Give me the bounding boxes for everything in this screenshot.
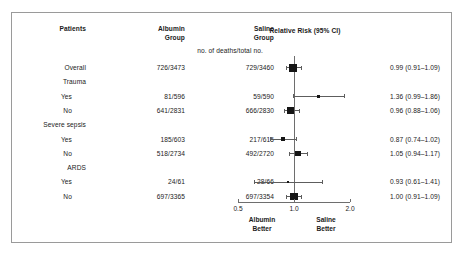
albumin-value: 81/596 [164,93,185,101]
albumin-value: 726/3473 [157,64,185,72]
albumin-value: 24/61 [168,178,185,186]
x-axis-tick [238,199,239,202]
relative-risk-value: 0.87 (0.74–1.02) [390,136,440,144]
ci-cap-right [301,66,302,70]
x-axis-line [238,202,350,203]
saline-better-label: SalineBetter [316,216,335,233]
row-label: No [63,193,72,201]
row-label: Yes [61,178,72,186]
ci-cap-right [299,109,300,113]
albumin-value: 185/603 [160,136,185,144]
relative-risk-value: 0.93 (0.61–1.41) [390,178,440,186]
ci-cap-right [307,152,308,156]
column-header-albumin-line1: Albumin [158,25,185,33]
saline-value: 697/3354 [246,193,274,201]
point-estimate-marker [317,95,320,98]
x-axis-tick [294,199,295,202]
row-label: Yes [61,136,72,144]
point-estimate-marker [289,64,297,72]
saline-value: 59/590 [253,93,274,101]
null-reference-line [294,56,295,202]
x-axis-tick [350,199,351,202]
row-label: Overall [64,64,86,72]
forest-plot-figure: Patients Albumin Group Saline Group no. … [11,12,452,243]
row-label: Yes [61,93,72,101]
x-axis-tick-label: 1.0 [289,205,298,212]
row-label: ARDS [67,164,86,172]
albumin-better-label: AlbuminBetter [249,216,275,233]
point-estimate-marker [295,151,300,156]
ci-cap-right [322,180,323,184]
ci-cap-left [286,195,287,199]
column-header-relative-risk: Relative Risk (95% CI) [269,27,340,35]
figure-canvas: Patients Albumin Group Saline Group no. … [12,13,451,242]
ci-cap-left [254,180,255,184]
ci-cap-left [270,137,271,141]
row-label: No [63,150,72,158]
row-label: Severe sepsis [43,121,86,129]
point-estimate-marker [287,107,295,115]
ci-cap-left [286,66,287,70]
point-estimate-marker [281,137,285,141]
relative-risk-value: 1.05 (0.94–1.17) [390,150,440,158]
ci-cap-right [344,94,345,98]
albumin-value: 518/2734 [157,150,185,158]
saline-value: 729/3460 [246,64,274,72]
saline-value: 492/2720 [246,150,274,158]
relative-risk-value: 1.00 (0.91–1.09) [390,193,440,201]
relative-risk-value: 0.99 (0.91–1.09) [390,64,440,72]
column-header-albumin-line2: Group [165,34,185,42]
column-header-saline-line2: Group [254,34,274,42]
relative-risk-value: 1.36 (0.99–1.86) [390,93,440,101]
albumin-value: 641/2831 [157,107,185,115]
ci-cap-left [293,94,294,98]
x-axis-tick-label: 2.0 [345,205,354,212]
x-axis-tick-label: 0.5 [233,205,242,212]
column-header-patients: Patients [60,25,86,33]
ci-cap-left [289,152,290,156]
point-estimate-marker [287,181,289,183]
row-label: Trauma [63,78,86,86]
albumin-value: 697/3365 [157,193,185,201]
ci-cap-left [284,109,285,113]
saline-value: 666/2830 [246,107,274,115]
relative-risk-value: 0.96 (0.88–1.06) [390,107,440,115]
row-label: No [63,107,72,115]
ci-cap-right [296,137,297,141]
ci-cap-right [301,195,302,199]
